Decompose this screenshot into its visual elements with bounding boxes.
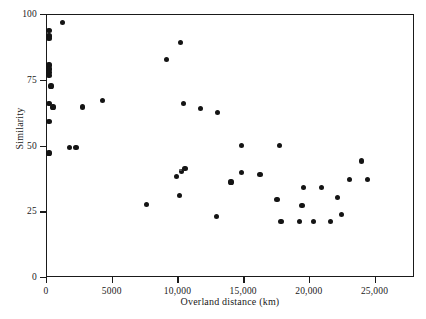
y-tick-label: 50 [27,141,37,151]
x-tick-mark [375,277,376,283]
x-tick-mark [243,277,244,283]
x-tick-label: 5000 [102,286,122,296]
data-point [228,179,233,184]
y-tick-mark [40,14,46,15]
data-point [215,110,220,115]
data-point [257,172,262,177]
x-tick-label: 10,000 [164,286,191,296]
x-tick-label: 15,000 [229,286,256,296]
data-point [80,104,85,109]
x-tick-mark [46,277,47,283]
y-tick-mark [40,277,46,278]
data-point [301,185,306,190]
data-points-layer [47,15,413,276]
data-point [274,197,279,202]
data-point [46,36,51,41]
data-point [214,214,219,219]
data-point [359,158,364,163]
y-tick-label: 25 [27,206,37,216]
data-point [335,195,340,200]
x-tick-mark [177,277,178,283]
y-tick-label: 75 [27,75,37,85]
plot-area [46,14,414,277]
x-axis-label: Overland distance (km) [46,296,414,307]
y-axis-label: Similarity [14,74,25,184]
data-point [299,203,304,208]
y-tick-label: 100 [22,9,37,19]
x-tick-label: 25,000 [361,286,388,296]
data-point [48,83,53,88]
data-point [46,119,51,124]
data-point [46,150,51,155]
data-point [164,57,169,62]
x-tick-mark [112,277,113,283]
data-point [46,73,51,78]
data-point [198,106,203,111]
data-point [100,98,105,103]
data-point [177,193,182,198]
data-point [297,219,302,224]
scatter-plot-figure: 0500010,00015,00020,00025,000 0255075100… [0,0,426,319]
data-point [347,177,352,182]
data-point [178,40,183,45]
data-point [311,219,316,224]
data-point [174,174,179,179]
data-point [328,219,333,224]
data-point [239,170,244,175]
data-point [278,219,283,224]
data-point [319,185,324,190]
y-tick-mark [40,146,46,147]
data-point [60,20,65,25]
y-tick-mark [40,80,46,81]
data-point [339,212,344,217]
data-point [277,143,282,148]
x-tick-label: 20,000 [295,286,322,296]
data-point [365,177,370,182]
data-point [182,166,187,171]
y-tick-label: 0 [32,272,37,282]
data-point [239,143,244,148]
data-point [73,145,78,150]
data-point [181,101,186,106]
data-point [144,202,149,207]
data-point [50,104,55,109]
y-tick-mark [40,211,46,212]
x-tick-mark [309,277,310,283]
x-tick-label: 0 [44,286,49,296]
data-point [67,145,72,150]
